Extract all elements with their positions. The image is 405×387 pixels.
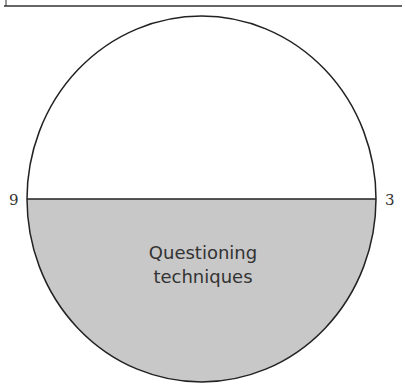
clock-diagram: 9 3 Questioning techniques xyxy=(0,0,405,387)
segment-label-line1: Questioning xyxy=(149,242,257,263)
label-three: 3 xyxy=(385,191,395,209)
segment-label-line2: techniques xyxy=(153,266,252,287)
label-nine: 9 xyxy=(9,191,19,209)
shaded-lower-half xyxy=(27,199,376,382)
